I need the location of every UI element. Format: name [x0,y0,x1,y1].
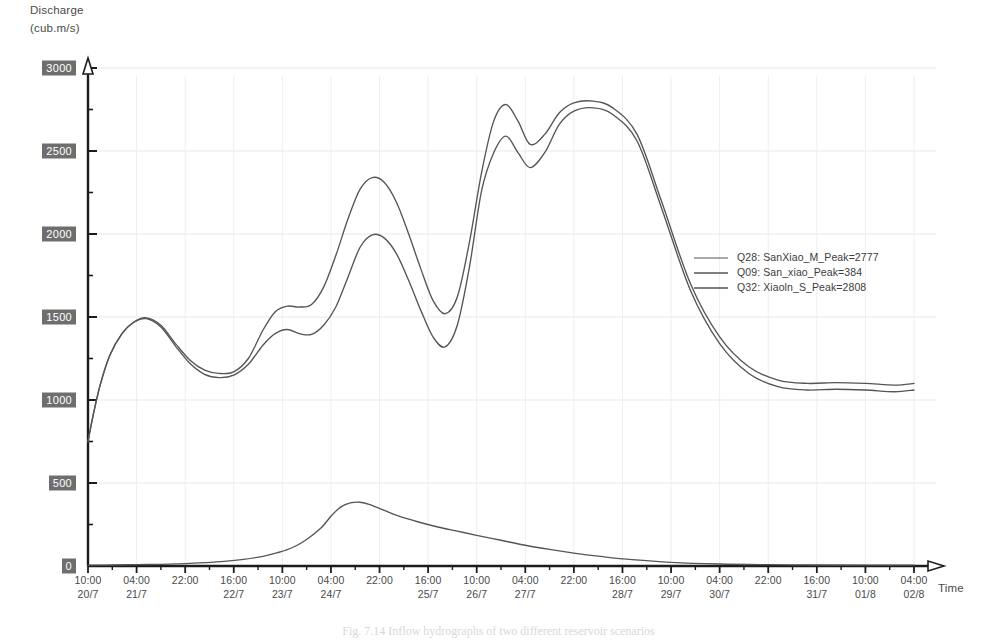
x-tick-time-label: 22:00 [172,574,199,586]
x-tick-time-label: 10:00 [75,574,102,586]
x-tick-time-label: 04:00 [318,574,345,586]
x-tick-time-label: 16:00 [415,574,442,586]
x-axis-title: Time [938,582,964,594]
y-tick-label: 1000 [42,393,76,408]
x-tick-date-label: 23/7 [272,588,293,600]
x-tick-date-label: 21/7 [126,588,147,600]
plot-area [0,0,997,642]
x-tick-time-label: 16:00 [220,574,247,586]
x-axis-arrowhead [928,561,944,571]
x-tick-date-label: 26/7 [466,588,487,600]
x-tick-time-label: 04:00 [901,574,928,586]
x-tick-time-label: 22:00 [755,574,782,586]
x-tick-date-label: 27/7 [515,588,536,600]
x-tick-time-label: 04:00 [706,574,733,586]
x-tick-time-label: 16:00 [803,574,830,586]
x-tick-time-label: 10:00 [269,574,296,586]
legend-entry-label: Q28: SanXiao_M_Peak=2777 [737,251,879,263]
chart-figure: Discharge (cub.m/s) Time 050010001500200… [0,0,997,642]
legend-sample-lines [694,258,728,288]
figure-caption: Fig. 7.14 Inflow hydrographs of two diff… [0,624,997,639]
series-line-2 [88,502,914,565]
x-tick-time-label: 04:00 [512,574,539,586]
y-tick-label: 2500 [42,144,76,159]
x-tick-date-label: 22/7 [223,588,244,600]
x-tick-date-label: 25/7 [418,588,439,600]
y-tick-label: 500 [49,476,76,491]
x-tick-date-label: 30/7 [709,588,730,600]
y-tick-label: 2000 [42,227,76,242]
x-tick-date-label: 20/7 [78,588,99,600]
y-axis-arrowhead [83,58,93,74]
y-tick-label: 3000 [42,61,76,76]
x-tick-date-label: 02/8 [904,588,925,600]
x-tick-time-label: 10:00 [658,574,685,586]
y-tick-label: 0 [62,559,76,574]
data-series-group [88,101,914,565]
y-axis-title-line1: Discharge [30,4,84,16]
x-tick-time-label: 16:00 [609,574,636,586]
x-tick-time-label: 10:00 [463,574,490,586]
x-tick-time-label: 22:00 [366,574,393,586]
legend-entry-label: Q09: San_xiao_Peak=384 [737,266,862,278]
y-tick-label: 1500 [42,310,76,325]
x-tick-date-label: 31/7 [806,588,827,600]
x-tick-time-label: 22:00 [560,574,587,586]
y-axis-title-line2: (cub.m/s) [30,22,80,34]
x-tick-time-label: 04:00 [123,574,150,586]
x-tick-date-label: 29/7 [661,588,682,600]
x-tick-date-label: 28/7 [612,588,633,600]
axis-tick-marks [88,68,914,573]
x-tick-date-label: 01/8 [855,588,876,600]
x-tick-date-label: 24/7 [321,588,342,600]
legend-entry-label: Q32: Xiaoln_S_Peak=2808 [737,281,866,293]
x-tick-time-label: 10:00 [852,574,879,586]
